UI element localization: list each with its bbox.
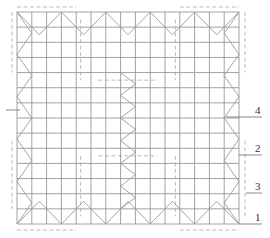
grid-diagram: 4 2 3 1 bbox=[0, 0, 270, 238]
label-2: 2 bbox=[255, 142, 261, 154]
label-1: 1 bbox=[255, 211, 261, 223]
label-3: 3 bbox=[255, 180, 261, 192]
label-4: 4 bbox=[255, 104, 261, 116]
